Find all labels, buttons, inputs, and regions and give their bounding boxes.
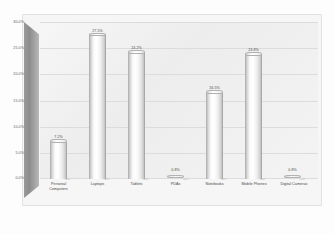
bar-slot: 23.8%	[245, 22, 262, 179]
y-tick-label: 0.0%	[15, 176, 24, 180]
y-tick-label: 25.0%	[13, 46, 24, 50]
x-tick-label-notebooks: Notebooks	[197, 182, 232, 187]
y-tick-label: 10.0%	[13, 125, 24, 129]
x-tick-label-digital-cameras: Digital Cameras	[274, 182, 314, 187]
bar-tablets[interactable]	[128, 52, 145, 179]
bar-cap	[167, 175, 184, 179]
x-tick-label-tablets: Tablets	[121, 182, 152, 187]
bar-slot: 24.2%	[128, 22, 145, 179]
chart-3d-wall	[24, 22, 39, 198]
bar-value-label: 0.8%	[288, 168, 296, 172]
chart-figure: 30.0% 25.0% 20.0% 15.0% 10.0% 5.0% 0.0% …	[0, 0, 335, 235]
bar-pdas[interactable]	[167, 175, 184, 179]
y-tick-label: 20.0%	[13, 72, 24, 76]
bar-slot: 0.8%	[167, 22, 184, 179]
bar-slot: 0.8%	[284, 22, 301, 179]
bar-cap	[206, 90, 222, 94]
x-tick-label-personal-computers: Personal Computers	[42, 182, 75, 192]
x-tick-label-mobile-phones: Mobile Phones	[235, 182, 273, 187]
bar-cap	[50, 139, 66, 143]
y-axis: 30.0% 25.0% 20.0% 15.0% 10.0% 5.0% 0.0%	[2, 22, 24, 198]
bar-slot: 27.5%	[89, 22, 106, 179]
bar-personal-computers[interactable]	[50, 142, 67, 179]
bar-mobile-phones[interactable]	[245, 54, 262, 179]
bar-cap	[284, 175, 301, 179]
bar-value-label: 0.8%	[171, 168, 179, 172]
bar-series: 7.2% 27.5% 24.2% 0.8%	[40, 22, 318, 179]
bar-laptops[interactable]	[89, 35, 106, 179]
x-tick-label-laptops: Laptops	[82, 182, 113, 187]
bar-digital-cameras[interactable]	[284, 175, 301, 179]
bar-cap	[89, 33, 105, 37]
bar-cap	[245, 52, 261, 56]
bar-slot: 16.5%	[206, 22, 223, 179]
y-tick-label: 15.0%	[13, 99, 24, 103]
bar-slot: 7.2%	[50, 22, 67, 179]
bar-notebooks[interactable]	[206, 93, 223, 179]
y-tick-label: 5.0%	[15, 151, 24, 155]
bar-cap	[128, 50, 144, 54]
x-tick-label-pdas: PDAs	[160, 182, 191, 187]
x-axis: Personal Computers Laptops Tablets PDAs …	[40, 182, 318, 206]
y-tick-label: 30.0%	[13, 20, 24, 24]
